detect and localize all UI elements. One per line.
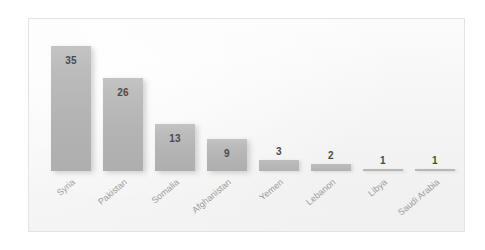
bar-value-syria: 35 [45, 55, 97, 66]
bar-lebanon [311, 164, 351, 171]
bar-group-lebanon: 2 Lebanon [305, 19, 357, 171]
bar-somalia [155, 124, 195, 171]
bar-group-saudi-arabia: 1 Saudi Arabia [409, 19, 461, 171]
bar-value-lebanon: 2 [305, 150, 357, 161]
bar-group-syria: 35 Syria [45, 19, 97, 171]
bar-value-afghanistan: 9 [201, 148, 253, 159]
bar-saudi-arabia [415, 169, 455, 171]
bar-group-afghanistan: 9 Afghanistan [201, 19, 253, 171]
chart-frame: 35 Syria 26 Pakistan 13 Somalia 9 Afghan… [28, 18, 465, 232]
bar-value-saudi-arabia: 1 [409, 155, 461, 166]
bar-value-libya: 1 [357, 155, 409, 166]
bar-group-somalia: 13 Somalia [149, 19, 201, 171]
bar-chart-figure: 35 Syria 26 Pakistan 13 Somalia 9 Afghan… [0, 0, 485, 250]
bar-group-libya: 1 Libya [357, 19, 409, 171]
bar-value-pakistan: 26 [97, 87, 149, 98]
bar-value-yemen: 3 [253, 146, 305, 157]
bar-group-yemen: 3 Yemen [253, 19, 305, 171]
bar-group-pakistan: 26 Pakistan [97, 19, 149, 171]
bar-value-somalia: 13 [149, 133, 201, 144]
plot-area: 35 Syria 26 Pakistan 13 Somalia 9 Afghan… [29, 19, 464, 231]
bar-yemen [259, 160, 299, 171]
bar-libya [363, 169, 403, 171]
